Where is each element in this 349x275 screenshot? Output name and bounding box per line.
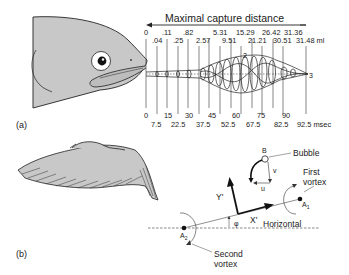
point-a1-label: A1 [302, 201, 310, 210]
horizontal-label: Horizontal [263, 219, 301, 229]
svg-text:.25: .25 [173, 36, 183, 45]
y-prime-axis [231, 183, 238, 214]
svg-text:30.51: 30.51 [273, 36, 292, 45]
svg-text:9.51: 9.51 [222, 36, 236, 45]
angle-phi-label: φ [234, 220, 239, 228]
bubble-point [262, 156, 268, 162]
figure-canvas: Maximal capture distance 0 .11 .82 [0, 0, 349, 275]
x-prime-axis [238, 206, 268, 214]
bird-wing-icon [18, 142, 158, 200]
svg-text:92.5 msec: 92.5 msec [297, 120, 331, 129]
arrow-right-icon [264, 203, 274, 210]
svg-text:52.5: 52.5 [221, 120, 235, 129]
wave-marker-3: 3 [309, 72, 313, 79]
svg-text:60: 60 [232, 111, 240, 120]
second-vortex-label-line2: vortex [214, 259, 238, 269]
svg-text:45: 45 [208, 111, 216, 120]
panel-a-label: (a) [16, 120, 27, 130]
fish-head-icon [32, 17, 147, 108]
svg-text:82.5: 82.5 [274, 120, 288, 129]
velocity-v-label: v [273, 167, 277, 174]
svg-text:30: 30 [185, 111, 193, 120]
bubble-point-label: B [262, 147, 267, 154]
arrow-up-icon [227, 177, 234, 187]
time-labels-row2: 7.5 22.5 37.5 52.5 67.5 82.5 92.5 msec [151, 120, 331, 129]
svg-text:.04: .04 [152, 36, 162, 45]
panel-b: Y' X' φ Horizontal A1 First vortex A2 Se… [16, 142, 327, 269]
svg-text:15: 15 [164, 111, 172, 120]
arrow-left-icon [146, 23, 152, 28]
svg-text:0: 0 [144, 28, 148, 37]
svg-text:31.48 ml: 31.48 ml [296, 36, 325, 45]
capture-volume-envelope [146, 55, 308, 93]
second-vortex-label-line1: Second [214, 249, 243, 259]
svg-text:.11: .11 [162, 28, 172, 37]
svg-text:2.57: 2.57 [196, 36, 210, 45]
svg-text:90: 90 [282, 111, 290, 120]
axis-y-label: Y' [216, 192, 224, 202]
time-gridlines [146, 39, 306, 114]
wave-marker-2: 2 [243, 52, 247, 59]
axis-x-label: X' [250, 215, 258, 225]
time-labels-row1: 0 15 30 45 60 75 90 [144, 111, 290, 120]
volume-labels-row2: .04 .25 2.57 9.51 21.21 30.51 31.48 ml [152, 36, 325, 45]
svg-text:37.5: 37.5 [196, 120, 210, 129]
point-a2 [182, 226, 187, 231]
bubble-label: Bubble [293, 148, 320, 158]
svg-text:7.5: 7.5 [151, 120, 161, 129]
svg-text:22.5: 22.5 [171, 120, 185, 129]
svg-text:0: 0 [144, 111, 148, 120]
panel-a: Maximal capture distance 0 .11 .82 [16, 12, 331, 130]
svg-text:75: 75 [257, 111, 265, 120]
svg-text:67.5: 67.5 [246, 120, 260, 129]
velocity-u-label: u [261, 185, 265, 192]
first-vortex-arc [284, 186, 296, 214]
arrow-down-icon [249, 178, 254, 183]
first-vortex-label-line1: First [303, 167, 320, 177]
panel-a-title: Maximal capture distance [165, 12, 284, 24]
svg-text:21.21: 21.21 [248, 36, 267, 45]
bubble-trajectory [251, 160, 262, 180]
panel-b-label: (b) [16, 249, 27, 259]
velocity-v-vector [268, 162, 270, 181]
svg-text:.82: .82 [183, 28, 193, 37]
rotation-arrow-icon [186, 240, 191, 245]
first-vortex-label-line2: vortex [303, 177, 327, 187]
point-a2-label: A2 [180, 232, 188, 241]
